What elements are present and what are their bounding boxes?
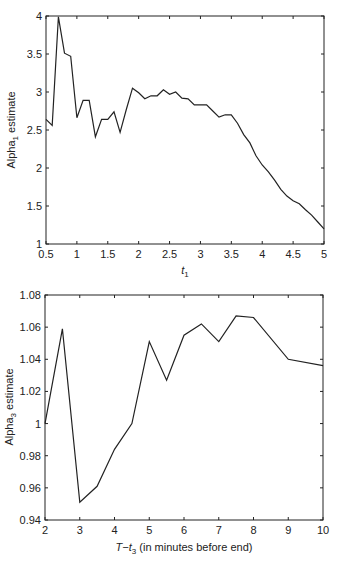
alpha3-chart: 2345678910 0.940.960.9811.021.041.061.08… xyxy=(3,289,329,556)
y-tick-label: 2 xyxy=(36,162,42,174)
x-tick-label: 6 xyxy=(181,524,187,536)
plot-area xyxy=(46,16,324,244)
x-tick-label: 3 xyxy=(77,524,83,536)
y-axis-ticks: 0.940.960.9811.021.041.061.08 xyxy=(20,289,323,526)
y-tick-label: 1.02 xyxy=(20,385,41,397)
x-tick-label: 5 xyxy=(146,524,152,536)
x-tick-label: 2 xyxy=(42,524,48,536)
y-tick-label: 3.5 xyxy=(27,48,42,60)
data-line xyxy=(45,316,323,502)
y-tick-label: 1 xyxy=(35,418,41,430)
y-tick-label: 1 xyxy=(36,238,42,250)
x-axis-label: T−t3 (in minutes before end) xyxy=(116,541,253,556)
y-axis-ticks: 11.522.533.54 xyxy=(27,10,324,250)
y-tick-label: 0.94 xyxy=(20,514,41,526)
y-tick-label: 1.04 xyxy=(20,353,41,365)
y-tick-label: 4 xyxy=(36,10,42,22)
y-tick-label: 1.08 xyxy=(20,289,41,301)
y-tick-label: 1.5 xyxy=(27,200,42,212)
chart-figure: 0.511.522.533.544.55 11.522.533.54 t1 Al… xyxy=(0,0,339,563)
plot-area xyxy=(45,295,323,520)
x-tick-label: 4.5 xyxy=(285,248,300,260)
y-tick-label: 0.96 xyxy=(20,482,41,494)
x-tick-label: 1 xyxy=(74,248,80,260)
y-tick-label: 0.98 xyxy=(20,450,41,462)
x-tick-label: 10 xyxy=(317,524,329,536)
y-tick-label: 3 xyxy=(36,86,42,98)
x-tick-label: 4 xyxy=(259,248,265,260)
y-axis-label: Alpha3 estimate xyxy=(3,368,18,445)
x-axis-label: t1 xyxy=(181,264,189,279)
x-tick-label: 5 xyxy=(321,248,327,260)
x-tick-label: 1.5 xyxy=(100,248,115,260)
x-tick-label: 8 xyxy=(250,524,256,536)
y-axis-label: Alpha1 estimate xyxy=(5,91,20,168)
x-tick-label: 4 xyxy=(111,524,117,536)
x-tick-label: 2 xyxy=(136,248,142,260)
x-tick-label: 9 xyxy=(285,524,291,536)
x-tick-label: 7 xyxy=(216,524,222,536)
y-tick-label: 1.06 xyxy=(20,321,41,333)
x-axis-ticks: 0.511.522.533.544.55 xyxy=(38,16,327,260)
x-tick-label: 3.5 xyxy=(224,248,239,260)
y-tick-label: 2.5 xyxy=(27,124,42,136)
x-tick-label: 2.5 xyxy=(162,248,177,260)
data-line xyxy=(46,17,324,229)
x-tick-label: 3 xyxy=(197,248,203,260)
alpha1-chart: 0.511.522.533.544.55 11.522.533.54 t1 Al… xyxy=(5,10,327,279)
x-axis-ticks: 2345678910 xyxy=(42,295,329,536)
